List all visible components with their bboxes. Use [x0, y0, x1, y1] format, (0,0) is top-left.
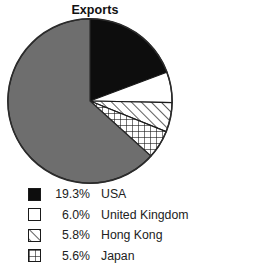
pie-chart-figure: Exports 19.3% USA — [0, 0, 279, 273]
legend-row-united-kingdom: 6.0% United Kingdom — [28, 205, 258, 226]
diagonal-hatch-swatch — [28, 229, 41, 242]
legend-percent: 19.3% — [48, 187, 90, 201]
legend-row-japan: 5.6% Japan — [28, 246, 258, 267]
legend-row-usa: 19.3% USA — [28, 184, 258, 205]
legend-label: Japan — [101, 249, 135, 263]
pie-svg — [6, 17, 174, 185]
grid-crosshatch-swatch — [28, 249, 41, 262]
pie-slice-group — [8, 19, 172, 183]
chart-title: Exports — [0, 2, 190, 18]
legend-percent: 5.8% — [48, 228, 90, 242]
legend-label: Hong Kong — [101, 228, 163, 242]
legend-label: USA — [101, 187, 126, 201]
legend-row-hong-kong: 5.8% Hong Kong — [28, 225, 258, 246]
legend-percent: 6.0% — [48, 208, 90, 222]
pie-chart-plot-area — [6, 17, 174, 185]
solid-black-swatch — [28, 188, 41, 201]
white-swatch — [28, 208, 41, 221]
legend: 19.3% USA 6.0% United Kingdom 5.8% Hong … — [28, 184, 258, 266]
legend-label: United Kingdom — [101, 208, 189, 222]
legend-percent: 5.6% — [48, 249, 90, 263]
